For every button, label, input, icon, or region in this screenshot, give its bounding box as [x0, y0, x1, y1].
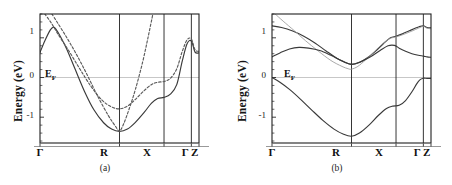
- panel-a-xtick-r: R: [96, 146, 112, 158]
- panel-a-fermi-level-label: EF: [45, 68, 56, 82]
- panel-a-caption: (a): [90, 163, 120, 173]
- band-structure-figure: Energy (eV) 1 0 -1 EF Γ R X Γ Z (a) Ener…: [0, 0, 452, 185]
- panel-b-fermi-label-text: E: [284, 68, 291, 79]
- panel-b-fermi-label-subscript: F: [291, 74, 295, 82]
- symmetry-point-lines: [120, 14, 192, 143]
- panel-a: Energy (eV) 1 0 -1 EF Γ R X Γ Z (a): [0, 0, 226, 185]
- panel-b-xtick-gamma: Γ: [264, 146, 280, 158]
- panel-a-xtick-x: X: [139, 146, 155, 158]
- panel-b-caption: (b): [322, 163, 352, 173]
- panel-b-xtick-r: R: [328, 146, 344, 158]
- y-axis-ticks: [40, 14, 44, 141]
- symmetry-point-lines: [352, 14, 424, 143]
- band-curve-band-2-light-solid: [275, 14, 431, 69]
- panel-a-xtick-gamma: Γ: [32, 146, 48, 158]
- panel-b-fermi-level-label: EF: [284, 68, 295, 82]
- panel-a-ytick-0: 0: [16, 70, 34, 80]
- panel-a-fermi-label-text: E: [45, 68, 52, 79]
- panel-b-xtick-x: X: [371, 146, 387, 158]
- panel-a-ytick-minus1: -1: [14, 110, 34, 120]
- panel-a-xtick-gamma-z: Γ Z: [176, 146, 204, 158]
- panel-b-ytick-1: 1: [248, 26, 266, 36]
- band-curve-band-2-dashed: [45, 14, 199, 109]
- panel-a-ytick-1: 1: [16, 26, 34, 36]
- panel-a-fermi-label-subscript: F: [52, 74, 56, 82]
- panel-b-ytick-0: 0: [248, 70, 266, 80]
- panel-b-xtick-gamma-z: Γ Z: [408, 146, 436, 158]
- panel-b-ytick-minus1: -1: [246, 110, 266, 120]
- panel-b: Energy (eV) 1 0 -1 EF Γ R X Γ Z (b): [226, 0, 452, 185]
- band-curve-band-3-dashed: [52, 14, 153, 131]
